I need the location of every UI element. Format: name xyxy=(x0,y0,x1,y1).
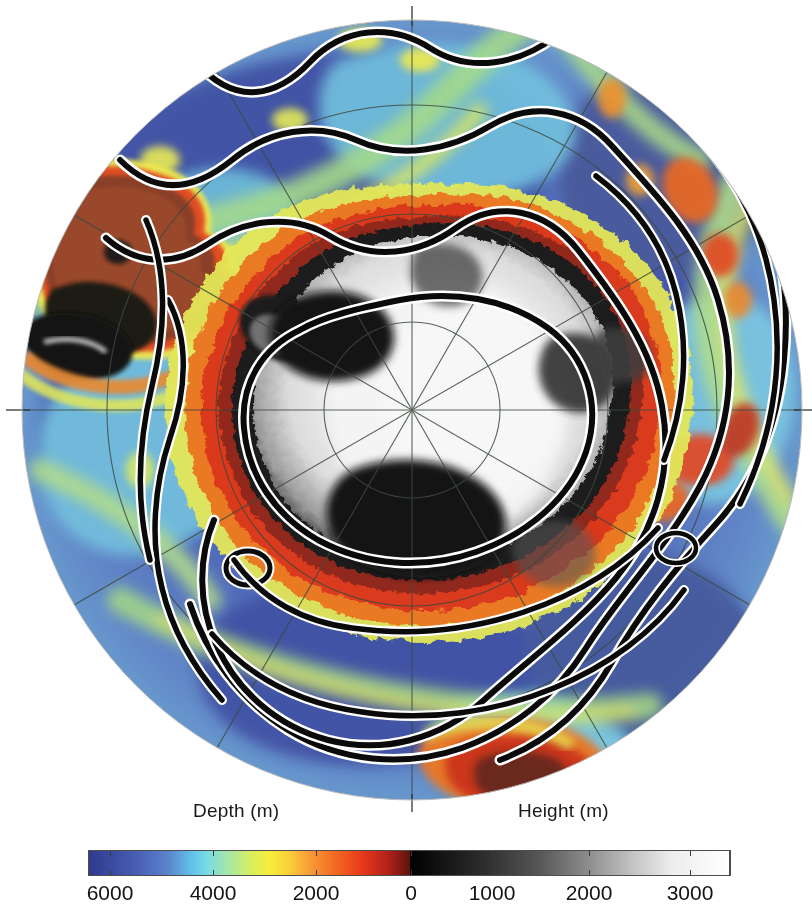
bathymetry-layer xyxy=(18,20,802,812)
colorbar-tick-labels: 6000400020000100020003000 xyxy=(0,881,812,911)
colorbar-ticklabel: 0 xyxy=(405,881,417,905)
colorbar-ticklabel: 3000 xyxy=(667,881,714,905)
colorbar-gradient xyxy=(89,851,729,875)
colorbar-height-label: Height (m) xyxy=(518,800,609,822)
colorbar-depth-label: Depth (m) xyxy=(193,800,279,822)
colorbar-ticklabel: 2000 xyxy=(293,881,340,905)
colorbar-legend: Depth (m) Height (m) 6000400020000100020… xyxy=(0,795,812,916)
colorbar-bar xyxy=(89,851,729,875)
colorbar-ticklabel: 1000 xyxy=(469,881,516,905)
colorbar-ticklabel: 4000 xyxy=(190,881,237,905)
map-canvas xyxy=(0,0,812,812)
colorbar-ticklabel: 6000 xyxy=(87,881,134,905)
colorbar-ticklabel: 2000 xyxy=(566,881,613,905)
antarctic-bathymetry-figure: Depth (m) Height (m) 6000400020000100020… xyxy=(0,0,812,916)
polar-map xyxy=(0,0,812,812)
